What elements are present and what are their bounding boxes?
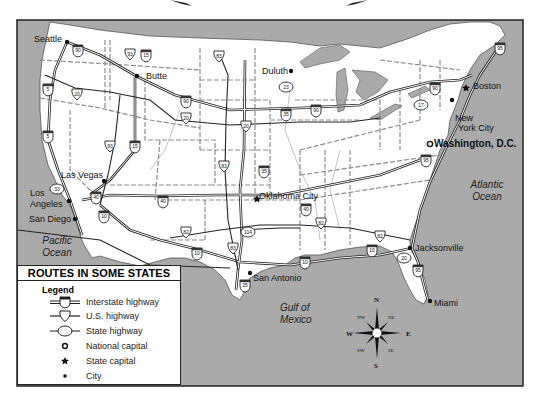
city-dot-icon [48, 369, 82, 383]
label-gulf-2: Mexico [280, 315, 326, 325]
svg-text:20: 20 [183, 115, 189, 121]
svg-text:83: 83 [221, 163, 227, 169]
svg-text:82: 82 [377, 233, 383, 239]
legend-label-state-highway: State highway [86, 326, 143, 336]
legend-item-state-highway: State highway [18, 324, 180, 338]
legend-label-interstate: Interstate highway [86, 297, 159, 307]
svg-text:93: 93 [127, 51, 133, 57]
svg-text:10: 10 [369, 247, 375, 253]
compass-nw: NW [357, 313, 365, 323]
svg-text:33: 33 [54, 186, 60, 192]
legend-label-us-highway: U.S. highway [86, 311, 139, 321]
label-miami: Miami [434, 298, 458, 308]
svg-text:15: 15 [143, 52, 149, 58]
label-seattle: Seattle [34, 34, 62, 44]
compass-se: SE [388, 346, 394, 356]
us-shield-icon [48, 309, 82, 323]
compass-s: S [374, 361, 378, 371]
legend-title: ROUTES IN SOME STATES [18, 266, 180, 281]
svg-text:82: 82 [183, 229, 189, 235]
svg-text:17: 17 [418, 102, 424, 108]
label-jacksonville: Jacksonville [415, 243, 464, 253]
svg-text:90: 90 [432, 85, 438, 91]
label-nyc-1: New [455, 113, 473, 123]
svg-text:35: 35 [242, 282, 248, 288]
arrow-right-decoration [346, 0, 368, 6]
svg-text:114: 114 [244, 229, 252, 235]
label-los-angeles-1: Los [30, 188, 45, 198]
seattle-dot [65, 40, 69, 44]
svg-text:23: 23 [283, 84, 289, 90]
label-san-antonio: San Antonio [253, 273, 302, 283]
svg-text:83: 83 [230, 245, 236, 251]
miami-dot [428, 299, 432, 303]
national-capital-icon [48, 339, 82, 353]
svg-text:10: 10 [194, 250, 200, 256]
label-oklahoma-city: Oklahoma City [259, 191, 318, 201]
compass-n: N [374, 295, 379, 305]
svg-text:83: 83 [216, 53, 222, 59]
compass-e: E [406, 329, 411, 339]
compass-ne: NE [388, 313, 395, 323]
dc-national-capital-icon [427, 141, 432, 146]
svg-text:90: 90 [313, 107, 319, 113]
legend-item-city: City [18, 369, 180, 383]
svg-text:15: 15 [132, 143, 138, 149]
svg-text:5: 5 [47, 133, 50, 139]
legend-item-state-capital: State capital [18, 354, 180, 368]
label-pacific-1: Pacific [34, 236, 80, 246]
san-antonio-dot [248, 271, 252, 275]
nyc-dot [450, 98, 454, 102]
label-boston: Boston [473, 81, 501, 91]
state-oval-icon [48, 324, 82, 338]
legend-label-city: City [86, 371, 102, 381]
label-las-vegas: Las Vegas [61, 170, 103, 180]
arrow-left-decoration [170, 0, 192, 6]
state-capital-star-icon [48, 354, 82, 368]
label-washington-dc: Washington, D.C. [434, 139, 516, 149]
svg-text:20: 20 [74, 91, 80, 97]
label-nyc-2: York City [458, 123, 494, 133]
label-duluth: Duluth [262, 66, 288, 76]
compass-sw: SW [357, 346, 365, 356]
label-los-angeles-2: Angeles [30, 199, 63, 209]
legend-item-interstate: Interstate highway [18, 295, 180, 309]
legend-box: ROUTES IN SOME STATES Legend Interstate … [17, 265, 181, 385]
interstate-shield-icon [48, 295, 82, 309]
duluth-dot [289, 69, 293, 73]
svg-text:20: 20 [243, 123, 249, 129]
svg-text:5: 5 [47, 86, 50, 92]
svg-text:35: 35 [261, 168, 267, 174]
svg-text:95: 95 [497, 45, 503, 51]
los-angeles-dot [67, 199, 71, 203]
svg-text:40: 40 [93, 194, 99, 200]
svg-text:93: 93 [107, 143, 113, 149]
svg-text:82: 82 [318, 220, 324, 226]
compass-w: W [346, 329, 353, 339]
svg-text:40: 40 [303, 206, 309, 212]
butte-dot [135, 74, 139, 78]
svg-text:40: 40 [160, 198, 166, 204]
label-pacific-2: Ocean [34, 248, 80, 258]
svg-text:90: 90 [183, 98, 189, 104]
label-butte: Butte [146, 71, 167, 81]
legend-label-state-capital: State capital [86, 356, 136, 366]
legend-heading: Legend [42, 285, 74, 295]
map-stage: 90 93 15 83 23 5 20 90 20 20 35 90 90 17… [0, 0, 539, 401]
svg-text:90: 90 [75, 47, 81, 53]
jacksonville-dot [408, 246, 412, 250]
legend-label-national-capital: National capital [86, 341, 148, 351]
svg-text:20: 20 [401, 255, 407, 261]
label-atlantic-2: Ocean [464, 192, 510, 202]
svg-text:95: 95 [415, 267, 421, 273]
label-atlantic-1: Atlantic [464, 180, 510, 190]
san-diego-dot [73, 217, 77, 221]
svg-text:10: 10 [101, 213, 107, 219]
label-san-diego: San Diego [29, 214, 71, 224]
label-gulf-1: Gulf of [280, 303, 326, 313]
svg-text:35: 35 [283, 111, 289, 117]
svg-text:95: 95 [423, 157, 429, 163]
svg-text:10: 10 [302, 259, 308, 265]
legend-item-national-capital: National capital [18, 339, 180, 353]
legend-item-us-highway: U.S. highway [18, 309, 180, 323]
